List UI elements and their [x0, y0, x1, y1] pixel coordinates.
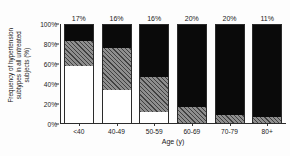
- y-tick-mark-0: [56, 124, 59, 125]
- y-axis-title-line-2: subtypes in all untreated: [15, 28, 23, 102]
- y-tick-mark-100: [56, 24, 59, 25]
- x-tick-mark: [267, 124, 268, 126]
- stacked-bar[interactable]: [215, 24, 245, 124]
- bar-segment-black: [216, 24, 244, 115]
- stacked-bar[interactable]: [252, 24, 282, 124]
- bar-segment-white: [140, 112, 168, 123]
- x-tick-mark: [230, 124, 231, 126]
- bar-group: 16%50-59: [139, 24, 169, 124]
- bar-segment-black: [103, 24, 131, 48]
- bar-segment-hatched: [178, 107, 206, 123]
- stacked-bar[interactable]: [102, 24, 132, 124]
- bar-group: 17%<40: [64, 24, 94, 124]
- y-axis-ticks: 100% 80% 60% 40% 20% 0%: [33, 0, 59, 156]
- y-axis-line: [60, 24, 61, 124]
- bar-segment-hatched: [216, 115, 244, 123]
- bar-group: 20%60-69: [177, 24, 207, 124]
- bar-value-label: 16%: [139, 15, 169, 22]
- bar-value-label: 16%: [102, 15, 132, 22]
- stacked-bar[interactable]: [139, 24, 169, 124]
- stacked-bar[interactable]: [64, 24, 94, 124]
- y-axis-title-line-1: Frequency of hypertension: [7, 28, 15, 102]
- bar-segment-black: [140, 24, 168, 77]
- y-tick-mark-40: [56, 84, 59, 85]
- stacked-bar[interactable]: [177, 24, 207, 124]
- bar-value-label: 17%: [64, 15, 94, 22]
- bar-segment-black: [65, 24, 93, 41]
- bar-segment-black: [253, 24, 281, 117]
- chart-figure: Frequency of hypertension subtypes in al…: [0, 0, 290, 156]
- x-tick-label: 40-49: [102, 128, 132, 135]
- y-axis-title-line-3: subjects (%): [23, 28, 31, 102]
- bar-segment-hatched: [103, 48, 131, 90]
- x-tick-label: 50-59: [139, 128, 169, 135]
- bar-segment-black: [178, 24, 206, 107]
- plot-area: 17%<4016%40-4916%50-5920%60-6920%70-7911…: [60, 24, 286, 124]
- x-tick-mark: [117, 124, 118, 126]
- x-tick-label: 60-69: [177, 128, 207, 135]
- y-tick-mark-80: [56, 44, 59, 45]
- bar-group: 11%80+: [252, 24, 282, 124]
- bar-segment-hatched: [65, 41, 93, 66]
- bar-segment-hatched: [140, 77, 168, 112]
- bar-segment-white: [103, 90, 131, 123]
- x-tick-mark: [79, 124, 80, 126]
- bar-group: 16%40-49: [102, 24, 132, 124]
- y-tick-mark-20: [56, 104, 59, 105]
- x-tick-mark: [154, 124, 155, 126]
- y-tick-mark-60: [56, 64, 59, 65]
- bar-value-label: 20%: [215, 15, 245, 22]
- x-tick-mark: [192, 124, 193, 126]
- x-tick-label: <40: [64, 128, 94, 135]
- bar-segment-hatched: [253, 117, 281, 123]
- y-tick-label-100: 100%: [40, 21, 57, 28]
- bar-segment-white: [65, 66, 93, 123]
- bar-value-label: 11%: [252, 15, 282, 22]
- bar-value-label: 20%: [177, 15, 207, 22]
- x-axis-title: Age (y): [60, 138, 286, 145]
- x-tick-label: 80+: [252, 128, 282, 135]
- bar-group: 20%70-79: [215, 24, 245, 124]
- y-axis-title: Frequency of hypertension subtypes in al…: [2, 0, 36, 130]
- x-tick-label: 70-79: [215, 128, 245, 135]
